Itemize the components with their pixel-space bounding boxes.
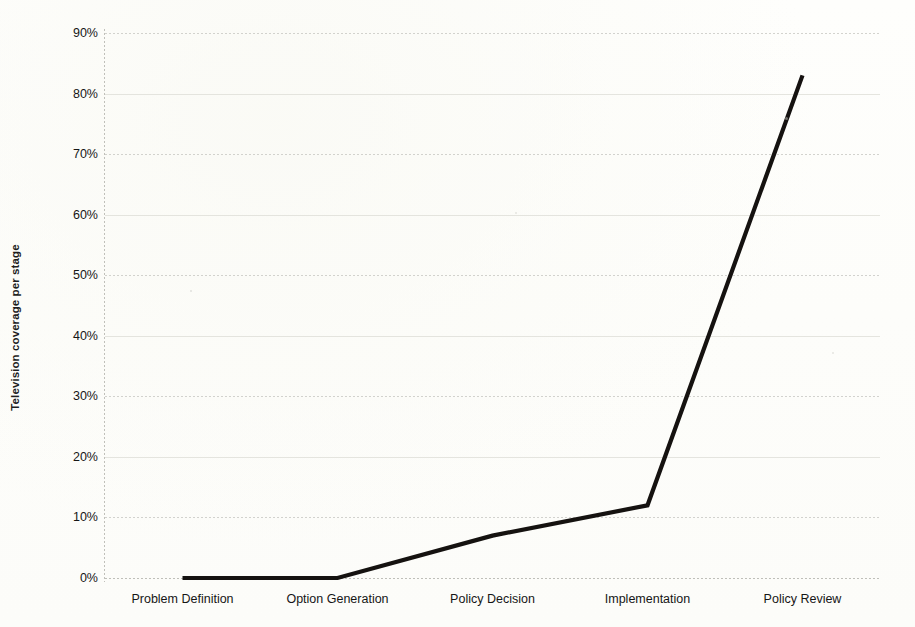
y-tick-label-30: 30% xyxy=(54,389,98,403)
y-tick-label-80: 80% xyxy=(54,87,98,101)
y-tick-label-60: 60% xyxy=(54,208,98,222)
series-line-television-coverage xyxy=(183,75,803,578)
chart-page: Television coverage per stage 0%10%20%30… xyxy=(0,0,915,627)
series-line-chart xyxy=(105,33,880,578)
x-tick-label-option-generation: Option Generation xyxy=(286,592,388,606)
y-tick-label-90: 90% xyxy=(54,26,98,40)
plot-area xyxy=(105,33,880,578)
x-tick-label-policy-review: Policy Review xyxy=(764,592,842,606)
x-tick-label-implementation: Implementation xyxy=(605,592,690,606)
x-tick-label-problem-definition: Problem Definition xyxy=(131,592,233,606)
x-axis-tick-labels: Problem DefinitionOption GenerationPolic… xyxy=(105,592,880,614)
y-tick-label-50: 50% xyxy=(54,268,98,282)
x-tick-label-policy-decision: Policy Decision xyxy=(450,592,535,606)
y-tick-label-20: 20% xyxy=(54,450,98,464)
y-tick-label-0: 0% xyxy=(54,571,98,585)
y-tick-label-10: 10% xyxy=(54,510,98,524)
y-axis-title-label: Television coverage per stage xyxy=(9,244,21,410)
y-tick-label-40: 40% xyxy=(54,329,98,343)
y-tick-label-70: 70% xyxy=(54,147,98,161)
y-axis-tick-labels: 0%10%20%30%40%50%60%70%80%90% xyxy=(50,33,98,578)
y-axis-title: Television coverage per stage xyxy=(0,0,46,627)
